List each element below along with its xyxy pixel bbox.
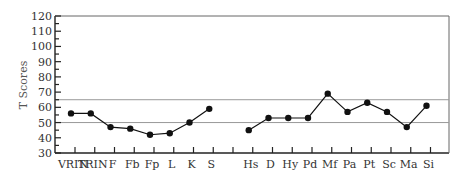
x-tick-label-f: F	[109, 158, 117, 171]
y-tick-label: 40	[38, 132, 52, 145]
x-tick-label-sc: Sc	[382, 158, 396, 171]
x-tick-label-d: D	[266, 158, 275, 171]
plot-frame	[55, 16, 449, 153]
x-tick-label-trin: TRIN	[78, 158, 108, 171]
y-tick-label: 30	[38, 147, 52, 160]
x-tick-label-fb: Fb	[125, 158, 140, 171]
x-tick-label-ma: Ma	[400, 158, 418, 171]
data-point-hy	[285, 115, 291, 121]
x-tick-label-hs: Hs	[243, 158, 259, 171]
x-tick-label-pa: Pa	[343, 158, 357, 171]
x-tick-label-l: L	[168, 158, 176, 171]
data-point-pd	[305, 115, 311, 121]
y-tick-label: 120	[31, 10, 52, 23]
data-point-k	[186, 119, 192, 125]
y-tick-label: 100	[31, 40, 52, 53]
data-series	[68, 90, 430, 138]
data-point-ma	[404, 124, 410, 130]
t-score-profile-chart: 30405060708090100110120 VRINTRINFFbFpLKS…	[0, 0, 471, 176]
y-tick-label: 110	[31, 25, 52, 38]
x-tick-label-pd: Pd	[303, 158, 317, 171]
data-point-f	[107, 124, 113, 130]
y-tick-label: 80	[38, 71, 52, 84]
data-point-hs	[246, 127, 252, 133]
x-tick-label-hy: Hy	[282, 158, 299, 171]
y-tick-label: 50	[38, 117, 52, 130]
x-tick-label-si: Si	[423, 158, 435, 171]
x-tick-label-mf: Mf	[322, 158, 338, 171]
data-point-l	[167, 130, 173, 136]
y-tick-label: 90	[38, 56, 52, 69]
y-axis-label: T Scores	[17, 60, 30, 109]
data-point-si	[423, 103, 429, 109]
x-tick-label-s: S	[207, 158, 215, 171]
x-tick-label-fp: Fp	[145, 158, 160, 171]
data-point-d	[265, 115, 271, 121]
y-axis: 30405060708090100110120	[31, 10, 61, 160]
data-point-pa	[344, 109, 350, 115]
data-point-mf	[325, 90, 331, 96]
y-tick-label: 70	[38, 86, 52, 99]
data-point-trin	[88, 110, 94, 116]
x-tick-label-k: K	[187, 158, 196, 171]
x-axis: VRINTRINFFbFpLKSHsDHyPdMfPaPtScMaSi	[57, 147, 435, 171]
data-point-fb	[127, 125, 133, 131]
x-tick-label-pt: Pt	[363, 158, 375, 171]
data-point-pt	[364, 100, 370, 106]
y-tick-label: 60	[38, 101, 52, 114]
series-line-clinical-scales	[249, 94, 427, 131]
data-point-fp	[147, 132, 153, 138]
data-point-s	[206, 106, 212, 112]
data-point-sc	[384, 109, 390, 115]
data-point-vrin	[68, 110, 74, 116]
